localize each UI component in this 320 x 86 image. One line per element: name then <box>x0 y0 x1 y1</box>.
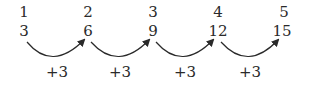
step-label: +3 <box>174 65 196 80</box>
arrow-arc <box>221 40 278 57</box>
step-label: +3 <box>46 65 68 80</box>
arrow-arc <box>27 40 84 57</box>
arrow-arc <box>156 40 213 57</box>
arrow-arc <box>91 40 149 57</box>
step-label: +3 <box>109 65 131 80</box>
step-label: +3 <box>239 65 261 80</box>
